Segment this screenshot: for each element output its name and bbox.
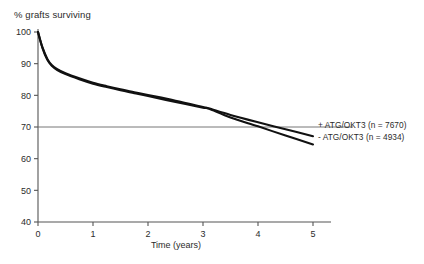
y-tick-label: 50 [21,186,31,196]
legend-item-atg-okt3-negative: - ATG/OKT3 (n = 4934) [318,132,404,142]
y-tick-label: 40 [21,217,31,227]
x-tick-label: 2 [145,229,150,239]
graft-survival-chart: % grafts surviving 405060708090100012345… [0,0,424,264]
tick-labels: 405060708090100012345 [16,27,316,239]
axes [34,29,331,226]
y-tick-label: 70 [21,122,31,132]
legend-item-atg-okt3-positive: + ATG/OKT3 (n = 7670) [318,120,407,130]
y-tick-label: 60 [21,154,31,164]
y-tick-label: 80 [21,91,31,101]
series-line-atg-okt3-negative [38,32,313,144]
x-tick-label: 0 [35,229,40,239]
x-tick-label: 3 [200,229,205,239]
series-line-atg-okt3-positive [38,32,313,136]
x-tick-label: 4 [255,229,260,239]
x-axis-title: Time (years) [0,240,352,250]
x-tick-label: 5 [310,229,315,239]
x-tick-label: 1 [90,229,95,239]
series-lines [38,32,313,144]
y-tick-label: 90 [21,59,31,69]
y-tick-label: 100 [16,27,31,37]
